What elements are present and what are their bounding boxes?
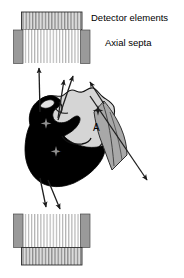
top-detector-elements — [22, 12, 83, 30]
bottom-axial-septa — [23, 214, 82, 248]
marker-label-c: C — [59, 148, 66, 159]
detector-elements-label: Detector elements — [91, 12, 168, 23]
axial-septa-label: Axial septa — [105, 37, 152, 48]
figure-canvas: Detector elements Axial septa A B C — [0, 0, 184, 278]
top-septa-block-left — [14, 30, 24, 64]
top-detector-assembly — [14, 12, 91, 64]
top-septa-block-right — [81, 30, 91, 64]
marker-label-a: A — [93, 122, 100, 133]
pet-scanner-diagram: Detector elements Axial septa A B C — [0, 0, 184, 278]
bottom-septa-block-right — [81, 214, 91, 248]
bottom-detector-assembly — [14, 214, 91, 265]
marker-label-b: B — [30, 145, 37, 156]
bottom-septa-block-left — [14, 214, 24, 248]
top-axial-septa — [23, 30, 82, 64]
bottom-detector-elements — [22, 248, 83, 266]
